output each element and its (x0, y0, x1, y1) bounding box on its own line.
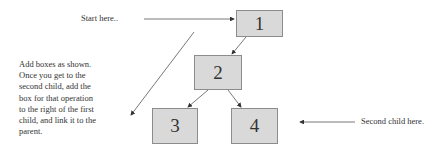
edge-2-4 (228, 90, 241, 107)
start-label: Start here.. (81, 13, 118, 24)
edge-2-3 (188, 90, 208, 107)
node-1: 1 (236, 10, 283, 37)
node-3: 3 (152, 108, 198, 144)
node-4: 4 (231, 108, 278, 144)
instructions-label: Add boxes as shown. Once you get to the … (19, 59, 99, 137)
edge-1-2 (232, 37, 246, 54)
instruction-arrow (131, 32, 194, 115)
node-2: 2 (194, 55, 242, 90)
second-child-label: Second child here. (361, 116, 424, 127)
